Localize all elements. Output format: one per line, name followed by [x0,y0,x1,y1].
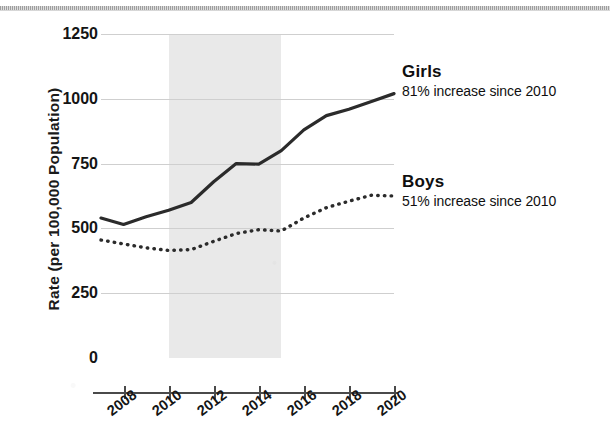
plot-area: 2008201020122014201620182020 [101,34,394,358]
y-tick-label: 1000 [62,90,98,108]
y-tick-label: 750 [71,155,98,173]
series-line-boys [101,195,394,250]
chart-figure: Rate (per 100,000 Population) 0250500750… [0,0,610,438]
y-tick-label: 0 [89,349,98,367]
y-tick-label: 250 [71,284,98,302]
series-lines [101,34,394,358]
annotation-boys-title: Boys [402,172,556,192]
series-line-girls [101,94,394,225]
annotation-boys-subtitle: 51% increase since 2010 [402,193,556,209]
annotation-boys: Boys 51% increase since 2010 [402,172,556,209]
annotation-girls: Girls 81% increase since 2010 [402,62,556,99]
y-axis-tick-labels: 025050075010001250 [36,0,98,438]
annotation-girls-title: Girls [402,62,556,82]
annotation-girls-subtitle: 81% increase since 2010 [402,83,556,99]
y-tick-label: 500 [71,219,98,237]
y-tick-label: 1250 [62,25,98,43]
